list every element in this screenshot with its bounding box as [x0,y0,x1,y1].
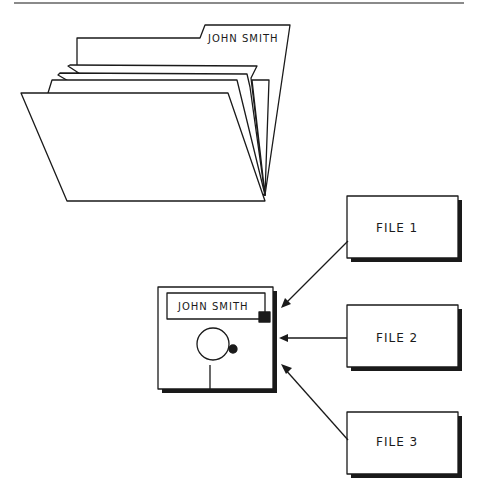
disk-index-hole [229,345,237,353]
disk-write-protect-notch [259,312,270,322]
folder-icon [21,25,290,201]
disk-label: JOHN SMITH [177,301,249,312]
arrowhead-2 [279,334,288,342]
file-3-label: FILE 3 [376,435,418,449]
arrow-file-3 [284,368,348,440]
file-2-label: FILE 2 [376,331,418,345]
folder-tab-label: JOHN SMITH [207,33,279,44]
arrowhead-3 [281,364,292,374]
folder-front [21,93,265,201]
arrow-file-1 [284,241,348,305]
file-1-label: FILE 1 [376,221,418,235]
diagram-canvas: JOHN SMITH JOHN SMITH FILE 1 FILE 2 FIL [0,0,484,496]
disk-hub-circle [197,328,229,360]
